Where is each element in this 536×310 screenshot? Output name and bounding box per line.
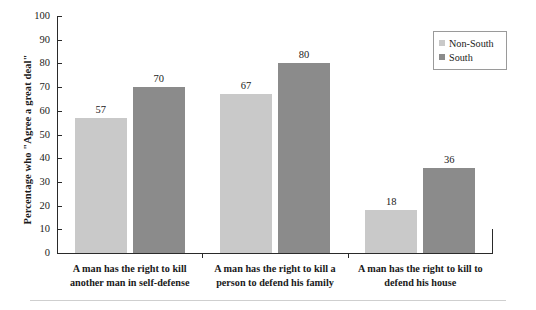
legend-swatch [439,54,445,60]
legend: Non-SouthSouth [433,31,507,70]
bar-group: 5770 [57,16,202,253]
category-label-line: person to defend his family [202,276,347,290]
bar-south: 80 [278,63,330,253]
bar-non-south: 18 [365,210,417,253]
y-tick-label: 0 [45,245,50,261]
category-label: A man has the right to killanother man i… [57,262,202,289]
category-label: A man has the right to kill todefend his… [348,262,493,289]
category-label-line: defend his house [348,276,493,290]
y-tick-mark [58,253,62,254]
category-label-line: A man has the right to kill [57,262,202,276]
bar-value-label: 57 [95,104,106,115]
bar-value-label: 80 [299,49,310,60]
y-tick-label: 60 [40,103,51,119]
bar-non-south: 57 [75,118,127,253]
y-tick-label: 10 [40,221,51,237]
y-tick: 0 [57,253,62,254]
category-label-line: A man has the right to kill a [202,262,347,276]
category-label-line: another man in self-defense [57,276,202,290]
y-axis-title: Percentage who "Agree a great deal" [22,25,33,255]
legend-item: Non-South [439,36,501,50]
category-label: A man has the right to kill aperson to d… [202,262,347,289]
x-axis-line [57,253,493,254]
legend-item: South [439,50,501,64]
x-axis-separator-tick [202,254,203,258]
y-tick-label: 70 [40,79,51,95]
y-tick-label: 80 [40,55,51,71]
bar-group: 6780 [202,16,347,253]
bar-chart-figure: Percentage who "Agree a great deal" 0102… [0,0,536,310]
x-axis-separator-tick [348,254,349,258]
bar-value-label: 18 [386,196,397,207]
legend-swatch [439,40,445,46]
bar-south: 70 [133,87,185,253]
legend-label: South [449,52,473,63]
y-tick-label: 20 [40,198,51,214]
bottom-divider [30,300,506,301]
bar-value-label: 67 [241,80,252,91]
plot-area: 0102030405060708090100 577067801836 [57,16,493,254]
bar-value-label: 36 [444,154,455,165]
y-tick-label: 40 [40,150,51,166]
bar-south: 36 [423,168,475,253]
legend-label: Non-South [449,38,494,49]
bar-value-label: 70 [153,73,164,84]
y-tick-label: 90 [40,32,51,48]
y-tick-label: 50 [40,127,51,143]
bar-non-south: 67 [220,94,272,253]
y-tick-label: 100 [34,8,50,24]
category-label-line: A man has the right to kill to [348,262,493,276]
y-tick-label: 30 [40,174,51,190]
